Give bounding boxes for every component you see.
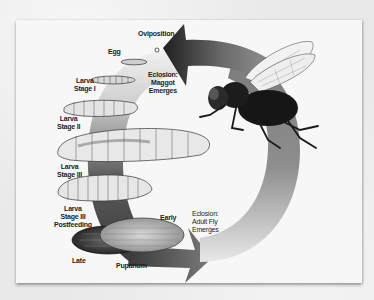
life-cycle-illustration [0,0,374,300]
larva-stage-3-icon [58,128,210,162]
label-larva-stage-3-line-2: Stage III [57,171,82,179]
label-larva-stage-3-line-1: Larva [57,163,82,171]
label-postfeeding-line-2: Stage III [54,213,92,221]
larva-stage-1-icon [91,76,135,84]
label-puparium: Puparium [116,262,147,270]
label-larva-stage-2-line-2: Stage II [57,123,80,131]
label-late: Late [72,257,86,265]
label-larva-stage-3-postfeeding: Larva Stage III Postfeeding [54,205,92,229]
label-larva-stage-3: Larva Stage III [57,163,82,179]
egg-icon [121,59,147,65]
label-eclosion-maggot-line-2: Maggot [148,79,178,87]
label-eclosion-maggot-line-1: Eclosion: [148,71,178,79]
label-oviposition: Oviposition [138,30,174,38]
label-larva-stage-1: Larva Stage I [74,77,96,93]
label-eclosion-adult-line-3: Emerges [192,226,219,234]
label-eclosion-maggot-line-3: Emerges [148,87,178,95]
label-eclosion-adult: Eclosion: Adult Fly Emerges [192,210,219,234]
egg-dot-icon [155,48,159,52]
label-larva-stage-1-line-2: Stage I [74,85,96,93]
label-egg: Egg [108,48,121,56]
label-larva-stage-2-line-1: Larva [57,115,80,123]
label-early: Early [160,214,176,222]
label-eclosion-maggot: Eclosion: Maggot Emerges [148,71,178,95]
label-eclosion-adult-line-1: Eclosion: [192,210,219,218]
label-postfeeding-line-3: Postfeeding [54,221,92,229]
label-postfeeding-line-1: Larva [54,205,92,213]
label-eclosion-adult-line-2: Adult Fly [192,218,219,226]
label-larva-stage-1-line-1: Larva [74,77,96,85]
puparium-early-icon [100,218,184,252]
label-larva-stage-2: Larva Stage II [57,115,80,131]
